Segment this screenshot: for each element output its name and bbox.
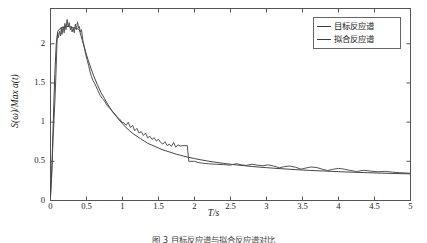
y-tick-label: 1 <box>19 116 45 126</box>
legend-item-target: 目标反应谱 <box>317 20 397 33</box>
x-tick-label: 3 <box>252 201 282 211</box>
legend-label-target: 目标反应谱 <box>334 20 374 33</box>
y-tick-label: 1.5 <box>19 77 45 87</box>
y-tick-label: 0.5 <box>19 155 45 165</box>
x-tick-label: 5 <box>396 201 426 211</box>
x-tick-label: 2 <box>180 201 210 211</box>
figure-caption: 图 3 目标反应谱与拟合反应谱对比 <box>0 233 427 243</box>
x-tick-label: 4.5 <box>360 201 390 211</box>
x-tick-label: 0.5 <box>72 201 102 211</box>
x-tick-label: 1 <box>108 201 138 211</box>
legend-line-icon <box>317 39 331 40</box>
response-spectrum-figure: S(ω)/Max a(t) T/s 00.511.522.533.544.55 … <box>0 0 427 243</box>
legend-item-fitted: 拟合反应谱 <box>317 33 397 46</box>
x-tick-label: 2.5 <box>216 201 246 211</box>
y-tick-label: 0 <box>19 195 45 205</box>
x-tick-label: 1.5 <box>144 201 174 211</box>
legend-label-fitted: 拟合反应谱 <box>334 33 374 46</box>
legend-line-icon <box>317 26 331 27</box>
y-tick-label: 2 <box>19 38 45 48</box>
y-axis-label: S(ω)/Max a(t) <box>10 56 20 146</box>
x-tick-label: 4 <box>324 201 354 211</box>
x-tick-label: 3.5 <box>288 201 318 211</box>
chart-legend: 目标反应谱 拟合反应谱 <box>313 17 401 49</box>
